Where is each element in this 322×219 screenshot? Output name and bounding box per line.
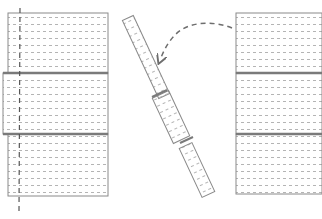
tilted-segment-bottom [179,143,215,198]
left-block-top [8,13,108,73]
left-block-bottom [8,134,108,196]
curved-arrow-icon [160,23,232,60]
right-block-top [236,13,322,73]
right-block-bottom [236,134,322,194]
diagram-canvas [0,0,322,219]
right-block-middle [236,73,322,134]
right-stack [236,13,322,194]
tilted-segment-top [122,15,169,98]
left-block-middle [3,73,108,134]
diagram-svg [0,0,322,219]
tilted-segment-middle [152,91,189,144]
left-stack [3,8,108,212]
tilted-column [122,15,214,197]
